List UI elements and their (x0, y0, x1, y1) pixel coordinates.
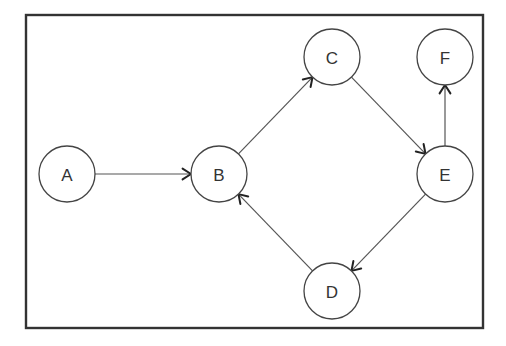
node-label: A (61, 166, 73, 185)
node-label: B (213, 166, 224, 185)
node-e: E (417, 146, 473, 202)
edge-line (238, 194, 312, 271)
edge-a-to-b (95, 169, 191, 180)
edge-line (351, 194, 425, 271)
node-label: F (440, 49, 450, 68)
edge-c-to-e (351, 77, 425, 154)
node-label: C (326, 49, 338, 68)
node-d: D (304, 263, 360, 319)
node-a: A (39, 146, 95, 202)
edge-d-to-b (238, 194, 312, 271)
node-c: C (304, 29, 360, 85)
edge-b-to-c (238, 77, 312, 154)
edge-line (351, 77, 425, 154)
node-label: E (439, 166, 450, 185)
node-b: B (191, 146, 247, 202)
edge-e-to-f (440, 85, 451, 146)
node-label: D (326, 283, 338, 302)
edges-layer (95, 77, 450, 271)
node-f: F (417, 29, 473, 85)
edge-line (238, 77, 312, 154)
graph-canvas: ABCFED (0, 0, 506, 346)
edge-e-to-d (351, 194, 425, 271)
